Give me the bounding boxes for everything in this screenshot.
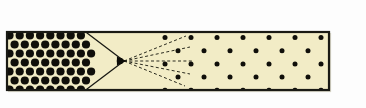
sparse-dot [189, 35, 194, 40]
sparse-dot [228, 75, 233, 80]
sparse-dot [306, 75, 311, 80]
dense-dot [36, 67, 44, 75]
sparse-dot [280, 75, 285, 80]
dense-dot [72, 40, 80, 48]
dense-dot [26, 49, 34, 57]
dense-dot [36, 49, 44, 57]
sparse-dot [215, 35, 220, 40]
dense-dot [41, 40, 49, 48]
sparse-dot [293, 35, 298, 40]
sparse-dot [319, 35, 324, 40]
sparse-dot [176, 48, 181, 53]
dense-dot [46, 67, 54, 75]
dense-dot [41, 76, 49, 84]
dense-dot [67, 49, 75, 57]
sparse-dot [319, 61, 324, 66]
dense-dot [16, 49, 24, 57]
dense-dot [31, 40, 39, 48]
dense-dot [31, 76, 39, 84]
sparse-dot [163, 61, 168, 66]
dense-dot [87, 67, 95, 75]
figure-root [0, 0, 366, 108]
dense-dot [46, 49, 54, 57]
dense-dot [62, 40, 70, 48]
dense-dot [87, 49, 95, 57]
dense-dot [56, 49, 64, 57]
dense-dot [21, 76, 29, 84]
dense-dot [11, 58, 19, 66]
dense-dot [82, 76, 90, 84]
dense-dot [26, 67, 34, 75]
dense-dot [82, 40, 90, 48]
diagram-canvas [0, 0, 366, 108]
sparse-dot [241, 61, 246, 66]
sparse-dot [176, 75, 181, 80]
dense-dot [77, 49, 85, 57]
dense-dot [67, 67, 75, 75]
sparse-dot [254, 75, 259, 80]
dense-dot [62, 58, 70, 66]
sparse-dot [306, 48, 311, 53]
focal-point-core [117, 58, 124, 65]
dense-dot [72, 76, 80, 84]
sparse-dot [189, 61, 194, 66]
sparse-dot [241, 35, 246, 40]
dense-dot [11, 40, 19, 48]
sparse-dot [267, 61, 272, 66]
dense-dot [77, 67, 85, 75]
sparse-dot [293, 61, 298, 66]
dense-dot [41, 58, 49, 66]
sparse-dot [202, 75, 207, 80]
sparse-dot [267, 35, 272, 40]
sparse-dot [202, 48, 207, 53]
dense-dot [62, 76, 70, 84]
sparse-dot [280, 48, 285, 53]
dense-dot [51, 58, 59, 66]
dense-dot [11, 76, 19, 84]
dense-dot [16, 67, 24, 75]
sparse-dot [215, 61, 220, 66]
dense-dot [51, 40, 59, 48]
sparse-dot [228, 48, 233, 53]
dense-dot [21, 58, 29, 66]
dense-dot [51, 76, 59, 84]
sparse-dot [163, 35, 168, 40]
dense-dot [82, 58, 90, 66]
dense-dot [72, 58, 80, 66]
dense-dot [31, 58, 39, 66]
dense-dot [56, 67, 64, 75]
sparse-dot [254, 48, 259, 53]
dense-dot [21, 40, 29, 48]
